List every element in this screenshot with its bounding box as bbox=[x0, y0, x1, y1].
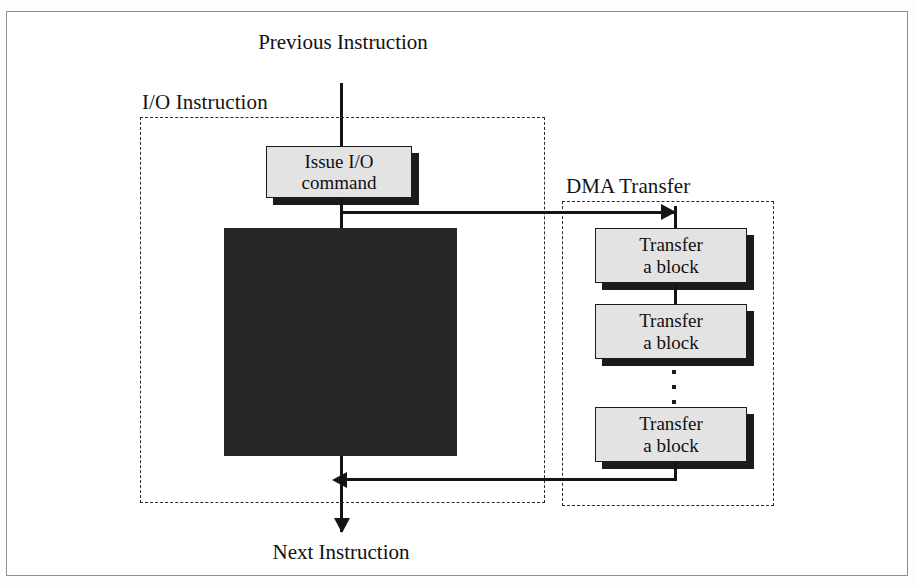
transfer-block-1-line-2: a block bbox=[643, 256, 698, 277]
ellipsis-dot bbox=[672, 400, 676, 404]
previous-instruction-label: Previous Instruction bbox=[248, 30, 438, 55]
connector-issue-to-dark-region bbox=[340, 198, 343, 230]
connector-transfer-1-to-2 bbox=[674, 283, 677, 304]
arrowhead-return-to-trunk bbox=[332, 472, 347, 488]
connector-branch-to-dma bbox=[340, 211, 674, 214]
issue-io-command-line-1: Issue I/O bbox=[304, 151, 373, 172]
group-label-dma-transfer: DMA Transfer bbox=[566, 174, 690, 199]
vertical-ellipsis-icon bbox=[669, 370, 679, 404]
transfer-block-1-line-1: Transfer bbox=[639, 234, 703, 255]
connector-dma-entry-stub bbox=[674, 206, 677, 228]
issue-io-command-line-2: command bbox=[302, 172, 377, 193]
process-box-issue-io-command[interactable]: Issue I/O command bbox=[266, 146, 412, 198]
transfer-block-3-line-2: a block bbox=[643, 435, 698, 456]
group-label-io-instruction: I/O Instruction bbox=[142, 90, 268, 115]
transfer-block-2-line-1: Transfer bbox=[639, 310, 703, 331]
transfer-block-3-line-1: Transfer bbox=[639, 413, 703, 434]
redacted-region bbox=[224, 228, 457, 456]
ellipsis-dot bbox=[672, 370, 676, 374]
process-box-transfer-block-2[interactable]: Transfer a block bbox=[595, 304, 747, 359]
transfer-block-2-line-2: a block bbox=[643, 332, 698, 353]
ellipsis-dot bbox=[672, 385, 676, 389]
arrowhead-next-instruction bbox=[334, 518, 350, 533]
next-instruction-label: Next Instruction bbox=[246, 540, 436, 565]
process-box-transfer-block-1[interactable]: Transfer a block bbox=[595, 228, 747, 283]
connector-dma-return-to-trunk bbox=[346, 478, 677, 481]
process-box-transfer-block-3[interactable]: Transfer a block bbox=[595, 407, 747, 462]
figure-canvas: Previous Instruction I/O Instruction DMA… bbox=[0, 0, 916, 586]
